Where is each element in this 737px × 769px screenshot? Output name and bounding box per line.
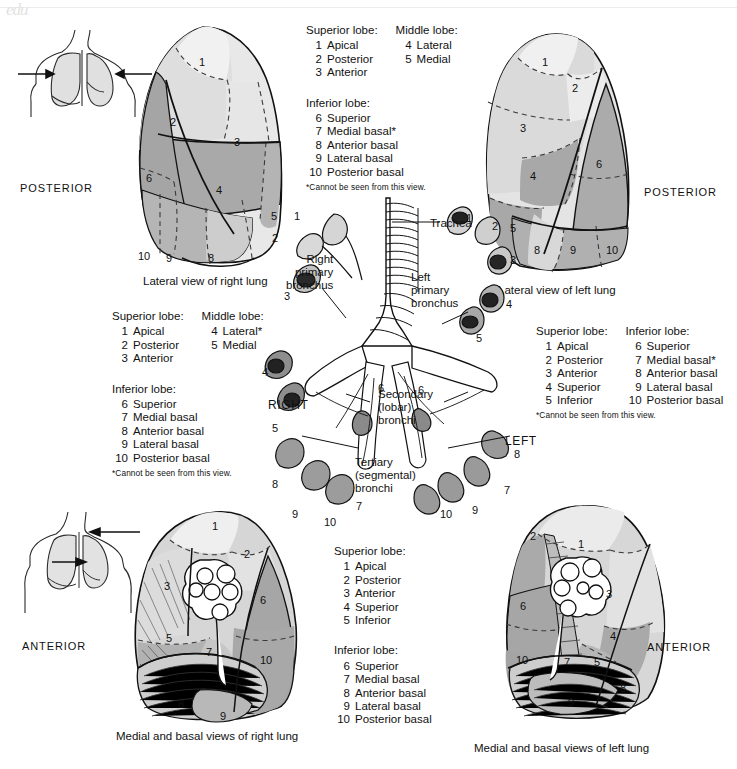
svg-text:3: 3 — [164, 580, 170, 592]
legend-item: 3Anterior — [334, 587, 432, 600]
svg-text:3: 3 — [234, 136, 240, 148]
svg-text:10: 10 — [440, 508, 452, 520]
legend-head-middle: Middle lobe: — [202, 310, 264, 323]
legend-item: 2Posterior — [306, 53, 378, 66]
legend-item: 7Medial basal* — [626, 354, 724, 367]
legend-item: 5Inferior — [536, 394, 608, 407]
legend-col-superior-lobe: Superior lobe: 1Apical 2Posterior 3Anter… — [536, 325, 608, 407]
orientation-label-posterior-left: POSTERIOR — [20, 182, 93, 194]
svg-text:4: 4 — [216, 184, 222, 196]
legend-item: 9Lateral basal — [626, 381, 724, 394]
legend-item: 1Apical — [334, 560, 432, 573]
legend-item: 1Apical — [112, 325, 184, 338]
svg-text:1: 1 — [542, 56, 548, 68]
legend-item: 5Medial — [202, 339, 264, 352]
orientation-label-posterior-right: POSTERIOR — [644, 186, 717, 198]
legend-footnote: *Cannot be seen from this view. — [112, 467, 264, 480]
legend-item: 2Posterior — [536, 354, 608, 367]
legend-item: 4Lateral — [396, 39, 458, 52]
svg-text:6: 6 — [596, 158, 602, 170]
legend-bottom-center: Superior lobe: 1Apical 2Posterior 3Anter… — [334, 545, 432, 727]
orientation-label-anterior-right: ANTERIOR — [647, 641, 711, 653]
caption-medial-right-lung: Medial and basal views of right lung — [116, 730, 298, 742]
legend-item: 7Medial basal* — [306, 125, 458, 138]
label-secondary-lobar-bronchi: Secondary (lobar) bronchi — [378, 388, 433, 428]
legend-footnote: *Cannot be seen from this view. — [536, 409, 723, 422]
lung-bronchopulmonary-segments-figure: { "figure": { "title": "Bronchopulmonary… — [0, 0, 737, 769]
legend-item: 4Superior — [536, 381, 608, 394]
watermark: edu — [6, 0, 28, 20]
legend-item: 10Posterior basal — [306, 166, 458, 179]
svg-text:6: 6 — [520, 600, 526, 612]
legend-col-superior-lobe: Superior lobe: 1Apical 2Posterior 3Anter… — [334, 545, 432, 627]
legend-item: 3Anterior — [112, 352, 184, 365]
legend-head-inferior: Inferior lobe: — [112, 383, 264, 396]
legend-col-inferior-lobe: Inferior lobe: 6Superior 7Medial basal 8… — [334, 644, 432, 726]
legend-head-inferior: Inferior lobe: — [334, 644, 432, 657]
svg-text:10: 10 — [606, 244, 618, 256]
svg-text:6: 6 — [260, 594, 266, 606]
legend-item: 4Lateral* — [202, 325, 264, 338]
legend-item: 9Lateral basal — [306, 152, 458, 165]
legend-head-superior: Superior lobe: — [536, 325, 608, 338]
medial-basal-view-left-lung-diagram: 2 1 6 3 4 10 7 5 8 9 — [478, 500, 693, 722]
legend-item: 2Posterior — [112, 339, 184, 352]
svg-text:7: 7 — [564, 656, 570, 668]
legend-item: 10Posterior basal — [626, 394, 724, 407]
legend-item: 6Superior — [306, 112, 458, 125]
legend-item: 8Anterior basal — [334, 687, 432, 700]
svg-text:4: 4 — [530, 170, 536, 182]
label-left-primary-bronchus: Left primary bronchus — [411, 271, 458, 311]
svg-text:1: 1 — [294, 210, 300, 222]
legend-item: 10Posterior basal — [112, 452, 264, 465]
svg-text:2: 2 — [572, 82, 578, 94]
legend-item: 2Posterior — [334, 574, 432, 587]
svg-text:2: 2 — [170, 116, 176, 128]
legend-item: 5Inferior — [334, 614, 432, 627]
medial-basal-view-right-lung-diagram: 1 2 3 6 5 7 10 8 9 — [108, 508, 323, 726]
svg-text:9: 9 — [220, 710, 226, 722]
svg-text:2: 2 — [530, 530, 536, 542]
svg-text:2: 2 — [272, 232, 278, 244]
svg-text:8: 8 — [178, 698, 184, 710]
legend-col-middle-lobe: Middle lobe: 4Lateral 5Medial — [396, 24, 458, 80]
svg-text:4: 4 — [610, 630, 616, 642]
legend-col-inferior-lobe: Inferior lobe: 6Superior 7Medial basal* … — [306, 97, 458, 179]
svg-text:2: 2 — [492, 220, 498, 232]
legend-head-inferior: Inferior lobe: — [306, 97, 458, 110]
legend-item: 6Superior — [112, 398, 264, 411]
svg-text:9: 9 — [570, 244, 576, 256]
label-trachea: Trachea — [430, 217, 472, 230]
svg-text:10: 10 — [138, 250, 150, 262]
svg-text:10: 10 — [260, 654, 272, 666]
svg-text:3: 3 — [606, 588, 612, 600]
legend-head-superior: Superior lobe: — [334, 545, 432, 558]
legend-col-middle-lobe: Middle lobe: 4Lateral* 5Medial — [202, 310, 264, 366]
svg-text:5: 5 — [272, 422, 278, 434]
svg-text:9: 9 — [568, 696, 574, 708]
legend-middle-right-lung: Superior lobe: 1Apical 2Posterior 3Anter… — [112, 310, 264, 480]
legend-item: 3Anterior — [306, 66, 378, 79]
svg-text:7: 7 — [504, 484, 510, 496]
legend-item: 1Apical — [536, 340, 608, 353]
legend-middle-left-lung: Superior lobe: 1Apical 2Posterior 3Anter… — [536, 325, 723, 423]
caption-lateral-right-lung: Lateral view of right lung — [143, 275, 268, 287]
svg-text:3: 3 — [520, 122, 526, 134]
legend-item: 6Superior — [334, 660, 432, 673]
legend-col-inferior-lobe: Inferior lobe: 6Superior 7Medial basal 8… — [112, 383, 264, 465]
caption-medial-left-lung: Medial and basal views of left lung — [474, 742, 649, 754]
legend-item: 8Anterior basal — [626, 367, 724, 380]
legend-col-superior-lobe: Superior lobe: 1Apical 2Posterior 3Anter… — [306, 24, 378, 80]
svg-text:5: 5 — [166, 632, 172, 644]
svg-text:9: 9 — [166, 252, 172, 264]
legend-item: 9Lateral basal — [112, 438, 264, 451]
legend-item: 8Anterior basal — [306, 139, 458, 152]
label-tertiary-segmental-bronchi: Tertiary (segmental) bronchi — [355, 456, 416, 496]
svg-text:8: 8 — [208, 252, 214, 264]
orientation-label-anterior-left: ANTERIOR — [22, 640, 86, 652]
svg-text:7: 7 — [206, 646, 212, 658]
label-side-right: RIGHT — [268, 398, 308, 412]
svg-text:8: 8 — [272, 478, 278, 490]
legend-col-superior-lobe: Superior lobe: 1Apical 2Posterior 3Anter… — [112, 310, 184, 366]
legend-item: 7Medial basal — [334, 673, 432, 686]
